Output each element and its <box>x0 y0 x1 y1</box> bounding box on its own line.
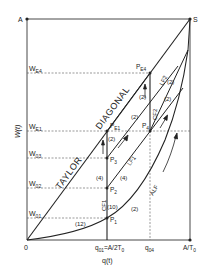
y-tick-w03: W03 <box>29 150 41 159</box>
value-2-pe1: (2) <box>108 136 115 142</box>
point-at0-dot <box>188 238 191 241</box>
label-p3: P3 <box>110 156 117 165</box>
point-pe4-dot <box>149 72 152 75</box>
label-alf: ALF <box>149 184 160 197</box>
value-4-lf1: (4) <box>120 175 127 181</box>
value-2-lf2: (2) <box>167 79 174 85</box>
label-p2: P2 <box>110 186 117 195</box>
label-lf1: LF1 <box>126 154 137 166</box>
x-axis-label: q(t) <box>102 257 113 265</box>
value-2-mid: (2) <box>131 114 138 120</box>
y-axis-label: W(t) <box>14 125 22 138</box>
label-p4: P4 <box>142 122 149 131</box>
label-cf2: CF2 <box>152 108 158 120</box>
point-a-dot <box>25 17 28 20</box>
up-arrow-cf1 <box>102 140 105 154</box>
value-4-left: (4) <box>96 175 103 181</box>
x-tick-q04: q04 <box>145 244 154 253</box>
label-pe4: PE4 <box>136 63 147 72</box>
value-2-right: (2) <box>164 96 171 102</box>
x-tick-at0: A/T0 <box>183 244 196 253</box>
taylor-diagonal-diagram: A S WE4 WE1 W03 W02 W01 W(t) 0 q01=A/2T0… <box>0 0 213 280</box>
value-2-upper-left: (2) <box>139 94 146 100</box>
point-p2-dot <box>106 187 109 190</box>
point-pe1-dot <box>106 130 109 133</box>
value-12: (12) <box>75 221 86 227</box>
value-2-alf: (2) <box>131 206 138 212</box>
point-p3-dot <box>106 157 109 160</box>
point-p1-dot <box>106 217 109 220</box>
value-10: (10) <box>107 204 118 210</box>
y-tick-w02: W02 <box>29 180 41 189</box>
y-tick-we4: WE4 <box>29 65 42 74</box>
label-p1: P1 <box>110 216 117 225</box>
y-tick-we1: WE1 <box>29 123 42 132</box>
label-s: S <box>193 16 198 23</box>
label-a: A <box>18 16 23 23</box>
label-pe1: PE1 <box>110 122 121 131</box>
y-tick-w01: W01 <box>29 210 41 219</box>
x-origin-label: 0 <box>24 244 28 251</box>
x-tick-q01: q01=A/2T0 <box>95 244 125 253</box>
label-taylor: TAYLOR <box>54 155 84 191</box>
